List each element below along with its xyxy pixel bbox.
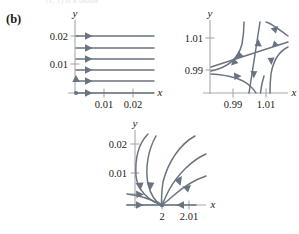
x-ticklabel-1: 1.01 <box>257 99 275 110</box>
trajectory-group <box>76 36 154 93</box>
y-ticklabel-0: 1.01 <box>185 33 203 44</box>
plot-origin: 0.02 0.01 0.01 0.02 y x <box>46 14 166 112</box>
trajectory-separatrix-unstable <box>249 22 260 93</box>
panel-phase-portrait-origin: 0.02 0.01 0.01 0.02 y x <box>46 14 166 112</box>
panel-phase-portrait-saddle: 1.01 0.99 0.99 1.01 y x <box>178 14 299 112</box>
flow-arrowhead <box>147 182 155 190</box>
x-axis-label: x <box>210 198 216 210</box>
x-axis-label: x <box>291 86 297 98</box>
flow-arrowhead <box>85 44 93 52</box>
y-ticklabel-0: 0.02 <box>109 139 127 150</box>
y-axis-flow-arrowhead <box>72 75 80 82</box>
figure-root: (1, 1) is a saddle (b) 0.02 0.01 0.01 0.… <box>0 0 299 234</box>
flow-arrowhead <box>177 201 185 208</box>
x-ticklabel-0: 2 <box>159 211 164 222</box>
x-ticklabel-0: 0.99 <box>224 99 242 110</box>
y-ticklabel-1: 0.01 <box>109 168 127 179</box>
flow-arrowhead <box>85 89 93 97</box>
y-ticklabel-1: 0.01 <box>50 59 68 70</box>
trajectory-curve <box>147 136 161 205</box>
clipped-top-caption: (1, 1) is a saddle <box>46 0 99 5</box>
y-axis-label: y <box>207 7 213 19</box>
y-axis-label: y <box>72 7 78 19</box>
arrowhead-group <box>85 32 93 97</box>
y-ticklabel-1: 0.99 <box>185 65 203 76</box>
trajectory-group <box>211 22 288 93</box>
part-label-b: (b) <box>6 12 21 27</box>
critical-point-origin <box>74 91 78 95</box>
flow-arrowhead <box>85 32 93 40</box>
flow-arrowhead <box>136 183 144 191</box>
trajectory-curve <box>211 22 244 71</box>
x-axis-label: x <box>157 86 163 98</box>
plot-node: 0.02 0.01 2 2.01 y x <box>96 120 230 230</box>
critical-point-node <box>160 203 165 208</box>
x-ticklabel-1: 2.01 <box>180 211 198 222</box>
flow-arrowhead <box>255 39 262 46</box>
flow-arrowhead <box>183 185 192 193</box>
flow-arrowhead <box>85 77 93 85</box>
x-ticklabel-1: 0.02 <box>124 99 142 110</box>
flow-arrowhead <box>136 201 144 208</box>
x-ticklabel-0: 0.01 <box>95 99 113 110</box>
y-ticklabel-0: 0.02 <box>50 31 68 42</box>
plot-saddle: 1.01 0.99 0.99 1.01 y x <box>178 14 299 112</box>
trajectory-curve <box>270 47 288 93</box>
trajectory-curve <box>261 76 265 93</box>
flow-arrowhead <box>85 66 93 74</box>
flow-arrowhead <box>85 55 93 63</box>
panel-phase-portrait-node: 0.02 0.01 2 2.01 y x <box>96 120 230 230</box>
y-axis-label: y <box>132 117 138 129</box>
